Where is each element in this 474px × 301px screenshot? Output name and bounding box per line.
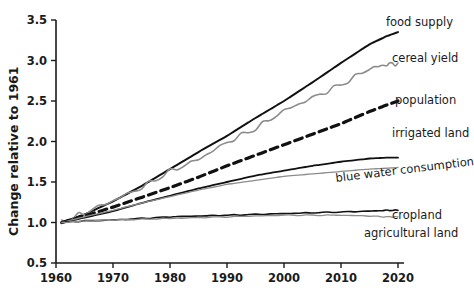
cereal-yield-label: cereal yield bbox=[392, 51, 458, 65]
y-tick-label: 2.5 bbox=[27, 94, 47, 108]
x-tick-2020: 2020 bbox=[382, 263, 414, 285]
cropland-label: cropland bbox=[392, 208, 442, 222]
line-chart: Change relative to 1961 0.51.01.52.02.53… bbox=[0, 0, 474, 301]
irrigated-land-label: irrigated land bbox=[392, 126, 469, 140]
y-tick-2-0: 2.0 bbox=[27, 135, 56, 149]
y-tick-2-5: 2.5 bbox=[27, 94, 56, 108]
x-tick-1990: 1990 bbox=[211, 263, 243, 285]
y-tick-label: 1.0 bbox=[27, 216, 47, 230]
series-paths bbox=[62, 32, 398, 223]
y-tick-label: 1.5 bbox=[27, 175, 47, 189]
blue-water-consumption-label: blue water consumption bbox=[335, 154, 474, 185]
y-tick-label: 2.0 bbox=[27, 135, 47, 149]
x-tick-2010: 2010 bbox=[325, 263, 357, 285]
series-line-agricultural-land bbox=[62, 215, 398, 223]
x-tick-2000: 2000 bbox=[268, 263, 300, 285]
x-tick-label: 1980 bbox=[154, 271, 186, 285]
series-line-irrigated-land bbox=[62, 158, 398, 223]
y-axis-title: Change relative to 1961 bbox=[6, 67, 21, 237]
food-supply-label: food supply bbox=[386, 15, 453, 29]
y-tick-3-0: 3.0 bbox=[27, 54, 56, 68]
x-tick-label: 2000 bbox=[268, 271, 300, 285]
series-line-food-supply bbox=[62, 32, 398, 222]
y-tick-3-5: 3.5 bbox=[27, 13, 56, 27]
y-tick-label: 0.5 bbox=[27, 256, 47, 270]
population-label: population bbox=[395, 93, 456, 107]
series-labels: food supplycereal yieldpopulationirrigat… bbox=[335, 15, 474, 240]
y-tick-1-0: 1.0 bbox=[27, 216, 56, 230]
x-tick-1980: 1980 bbox=[154, 263, 186, 285]
series-line-cereal-yield bbox=[62, 63, 398, 222]
x-tick-label: 2010 bbox=[325, 271, 357, 285]
y-tick-label: 3.0 bbox=[27, 54, 47, 68]
x-tick-1970: 1970 bbox=[97, 263, 129, 285]
y-tick-0-5: 0.5 bbox=[27, 256, 56, 270]
y-tick-1-5: 1.5 bbox=[27, 175, 56, 189]
x-tick-label: 1990 bbox=[211, 271, 243, 285]
x-tick-label: 1970 bbox=[97, 271, 129, 285]
x-axis-ticks: 1960197019801990200020102020 bbox=[40, 263, 414, 285]
x-tick-label: 2020 bbox=[382, 271, 414, 285]
y-axis-ticks: 0.51.01.52.02.53.03.5 bbox=[27, 13, 56, 270]
x-tick-label: 1960 bbox=[40, 271, 72, 285]
y-tick-label: 3.5 bbox=[27, 13, 47, 27]
agricultural-land-label: agricultural land bbox=[364, 226, 458, 240]
chart-container: Change relative to 1961 0.51.01.52.02.53… bbox=[0, 0, 474, 301]
